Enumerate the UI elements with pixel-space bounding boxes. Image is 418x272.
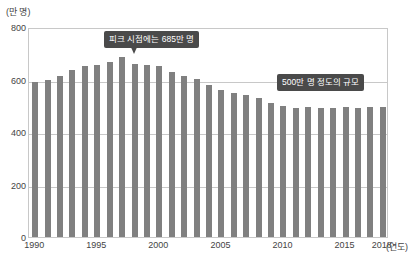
bar-chart-figure: (만 명) 800 600 400 200 0 1990199520002005… [0, 0, 418, 272]
bar-series [29, 29, 387, 237]
bar [132, 64, 138, 237]
bar [119, 57, 125, 237]
y-axis-tick-labels: 800 600 400 200 0 [0, 0, 26, 272]
bar [218, 90, 224, 237]
x-tick-label: 2015 [335, 240, 355, 250]
plot-area [28, 28, 388, 238]
bar [206, 85, 212, 237]
x-axis-unit-label: (연도) [386, 240, 408, 253]
bar [330, 108, 336, 237]
x-tick-label: 1995 [86, 240, 106, 250]
bar [107, 62, 113, 237]
plateau-callout: 500만 명 정도의 규모 [277, 74, 364, 91]
bar [280, 106, 286, 237]
bar [57, 76, 63, 237]
bar [231, 93, 237, 237]
x-axis-tick-labels: 1990199520002005201020152018 [0, 240, 418, 254]
bar [69, 70, 75, 237]
bar [144, 65, 150, 237]
bar [355, 108, 361, 237]
bar [305, 107, 311, 237]
bar [343, 107, 349, 237]
y-tick-label: 400 [2, 128, 26, 138]
bar [45, 80, 51, 238]
bar [156, 66, 162, 237]
peak-callout-pointer [130, 45, 138, 54]
peak-callout: 피크 시점에는 685만 명 [104, 31, 199, 48]
x-tick-label: 1990 [24, 240, 44, 250]
y-tick-label: 600 [2, 76, 26, 86]
bar [181, 76, 187, 237]
y-tick-label: 800 [2, 23, 26, 33]
x-tick-label: 2005 [210, 240, 230, 250]
bar [32, 82, 38, 237]
bar [293, 108, 299, 237]
y-tick-label: 200 [2, 181, 26, 191]
bar [380, 107, 386, 237]
bar [243, 95, 249, 237]
bar [367, 107, 373, 237]
bar [194, 79, 200, 237]
bar [169, 72, 175, 237]
bar [318, 108, 324, 237]
bar [82, 66, 88, 237]
x-tick-label: 2010 [272, 240, 292, 250]
bar [94, 65, 100, 237]
bar [256, 98, 262, 237]
bar [268, 103, 274, 237]
x-tick-label: 2000 [148, 240, 168, 250]
